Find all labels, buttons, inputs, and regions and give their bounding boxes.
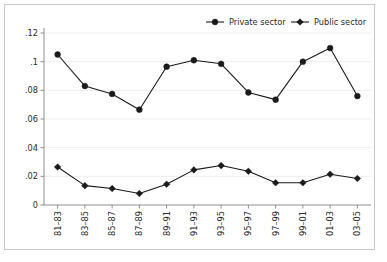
y-axis-labels: 0.02.04.06.08.1.12 xyxy=(25,28,38,210)
data-point xyxy=(273,97,279,103)
y-tick-label: .12 xyxy=(25,28,38,38)
line-chart: 0.02.04.06.08.1.12 81–8383–8585–8787–898… xyxy=(0,0,387,262)
data-point xyxy=(82,182,89,189)
data-point xyxy=(354,93,360,99)
x-tick-label: 87–89 xyxy=(134,211,144,236)
data-point xyxy=(245,168,252,175)
data-point xyxy=(327,45,333,51)
x-tick-label: 85–87 xyxy=(107,211,117,236)
x-tick-label: 95–97 xyxy=(243,211,253,236)
y-tick-label: .08 xyxy=(25,85,38,95)
data-point xyxy=(109,185,116,192)
legend-item-2[interactable]: Public sector xyxy=(291,17,367,27)
chart-container: 0.02.04.06.08.1.12 81–8383–8585–8787–898… xyxy=(0,0,387,262)
legend-marker xyxy=(297,19,304,26)
legend-label: Public sector xyxy=(314,17,367,27)
legend-label: Private sector xyxy=(229,17,286,27)
data-point xyxy=(55,52,61,58)
data-point xyxy=(109,91,115,97)
x-tick-label: 03–05 xyxy=(352,211,362,236)
data-point xyxy=(191,167,198,174)
y-tick-label: .1 xyxy=(30,57,38,67)
series-line xyxy=(58,48,358,110)
data-point xyxy=(82,83,88,89)
x-tick-label: 83–85 xyxy=(80,211,90,236)
series-1 xyxy=(55,45,361,112)
data-point xyxy=(245,90,251,96)
y-tick-label: .02 xyxy=(25,171,38,181)
data-point xyxy=(163,181,170,188)
data-point xyxy=(164,64,170,70)
y-axis-ticks xyxy=(41,33,45,205)
data-point xyxy=(300,179,307,186)
chart-legend: Private sectorPublic sector xyxy=(206,17,367,27)
data-point xyxy=(272,179,279,186)
data-point xyxy=(136,190,143,197)
axes xyxy=(44,28,371,205)
x-axis-ticks xyxy=(58,205,358,209)
x-tick-label: 89–91 xyxy=(162,211,172,236)
data-point xyxy=(191,57,197,63)
data-point xyxy=(54,164,61,171)
series-2 xyxy=(54,162,360,197)
data-point xyxy=(136,107,142,113)
x-axis-labels: 81–8383–8585–8787–8989–9191–9393–9595–97… xyxy=(53,211,363,236)
x-tick-label: 81–83 xyxy=(53,211,63,236)
legend-item-1[interactable]: Private sector xyxy=(206,17,286,27)
gridlines xyxy=(44,33,371,176)
data-point xyxy=(218,61,224,67)
data-series xyxy=(54,45,360,197)
x-tick-label: 99–01 xyxy=(298,211,308,236)
x-tick-label: 91–93 xyxy=(189,211,199,236)
y-tick-label: 0 xyxy=(33,200,38,210)
data-point xyxy=(300,59,306,65)
legend-marker xyxy=(212,19,218,25)
y-tick-label: .04 xyxy=(25,143,38,153)
x-tick-label: 97–99 xyxy=(271,211,281,236)
x-tick-label: 93–95 xyxy=(216,211,226,236)
data-point xyxy=(218,162,225,169)
y-tick-label: .06 xyxy=(25,114,38,124)
series-line xyxy=(58,166,358,194)
x-tick-label: 01–03 xyxy=(325,211,335,236)
